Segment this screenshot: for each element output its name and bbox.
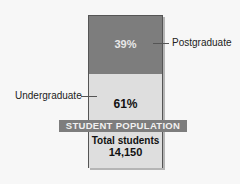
postgraduate-label: Postgraduate bbox=[172, 37, 232, 48]
undergraduate-leader-line bbox=[81, 96, 97, 97]
postgraduate-percent: 39% bbox=[89, 38, 162, 50]
total-value: 14,150 bbox=[88, 146, 163, 158]
postgraduate-segment: 39% bbox=[89, 16, 162, 74]
chart-title-banner: STUDENT POPULATION bbox=[59, 120, 187, 132]
undergraduate-percent: 61% bbox=[89, 97, 162, 111]
total-label: Total students bbox=[88, 135, 163, 146]
postgraduate-leader-line bbox=[153, 43, 169, 44]
undergraduate-label: Undergraduate bbox=[15, 90, 82, 101]
